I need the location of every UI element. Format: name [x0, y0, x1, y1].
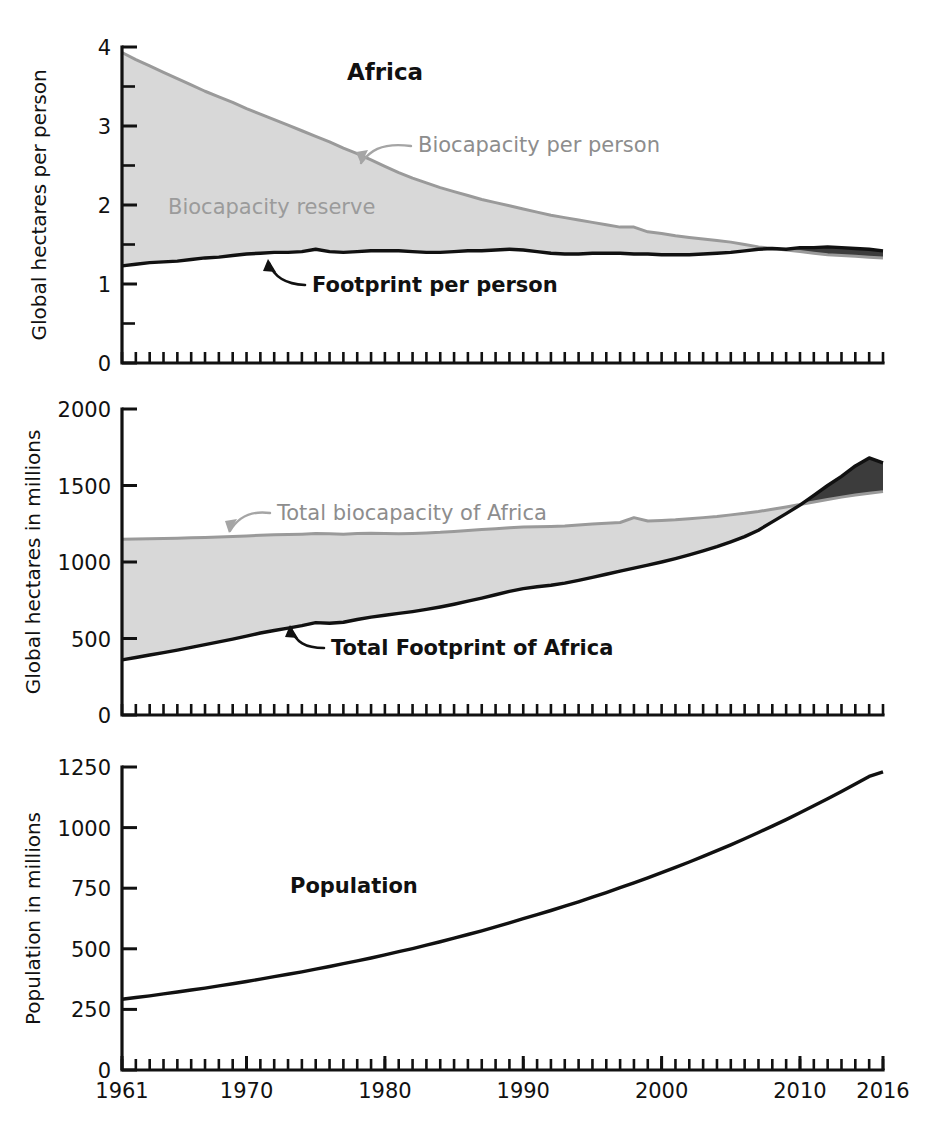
- y-axis-title-p3: Population in millions: [21, 812, 45, 1025]
- biocapacity-reserve-label: Biocapacity reserve: [168, 195, 375, 219]
- ytick-label-p2: 1000: [58, 551, 111, 575]
- ytick-label-p2: 2000: [58, 398, 111, 422]
- xtick-label: 1961: [95, 1079, 148, 1103]
- ytick-label-p1: 1: [98, 273, 111, 297]
- biocapacity-per-person-label: Biocapacity per person: [418, 133, 660, 157]
- xtick-label: 2016: [856, 1079, 909, 1103]
- total-biocapacity-label: Total biocapacity of Africa: [276, 501, 547, 525]
- y-axis-title-p1: Global hectares per person: [27, 69, 51, 340]
- ytick-label-p3: 750: [71, 877, 111, 901]
- ytick-label-p2: 0: [98, 704, 111, 728]
- total-footprint-label: Total Footprint of Africa: [331, 636, 613, 660]
- ytick-label-p1: 0: [98, 352, 111, 376]
- page-title: Africa: [347, 59, 423, 85]
- ytick-label-p3: 250: [71, 998, 111, 1022]
- africa-footprint-figure: 01234Global hectares per person 05001000…: [0, 0, 928, 1138]
- ytick-label-p3: 1000: [58, 817, 111, 841]
- xtick-label: 2010: [773, 1079, 826, 1103]
- xtick-label: 2000: [635, 1079, 688, 1103]
- ytick-label-p1: 4: [98, 36, 111, 60]
- ytick-label-p2: 500: [71, 628, 111, 652]
- y-axis-title-p2: Global hectares in millions: [21, 430, 45, 695]
- xtick-label: 1970: [220, 1079, 273, 1103]
- ytick-label-p1: 3: [98, 115, 111, 139]
- ytick-label-p1: 2: [98, 194, 111, 218]
- xtick-label: 1990: [497, 1079, 550, 1103]
- ytick-label-p2: 1500: [58, 475, 111, 499]
- ytick-label-p3: 1250: [58, 756, 111, 780]
- xtick-label: 1980: [358, 1079, 411, 1103]
- ytick-label-p3: 500: [71, 938, 111, 962]
- chart-canvas: 01234Global hectares per person 05001000…: [0, 0, 928, 1138]
- population-label: Population: [290, 874, 418, 898]
- footprint-per-person-label: Footprint per person: [312, 273, 558, 297]
